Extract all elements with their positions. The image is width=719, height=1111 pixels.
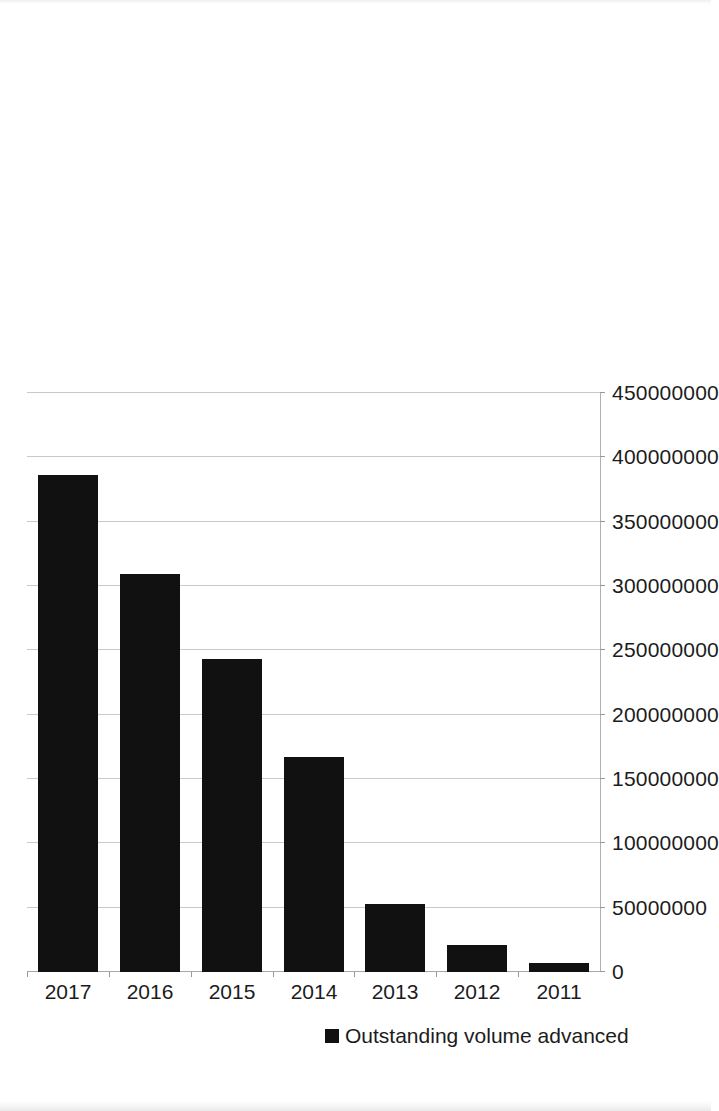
- bar-2015: [202, 659, 262, 972]
- category-tick: [354, 972, 355, 977]
- value-tick-label: 300000000: [612, 574, 719, 598]
- category-tick: [27, 972, 28, 977]
- value-tick-label: 350000000: [612, 510, 719, 534]
- bar-2013: [365, 904, 425, 972]
- scan-bottom-edge: [0, 1101, 711, 1111]
- value-tick-mark: [600, 907, 605, 908]
- bar-2011: [529, 963, 589, 972]
- value-tick-label: 150000000: [612, 767, 719, 791]
- value-tick-mark: [600, 842, 605, 843]
- gridline: [27, 585, 600, 586]
- category-label-2015: 2015: [208, 980, 255, 1004]
- value-tick-mark: [600, 521, 605, 522]
- category-axis-line: [600, 393, 601, 972]
- value-tick-label: 450000000: [612, 381, 719, 405]
- gridline: [27, 714, 600, 715]
- bar-2014: [284, 757, 344, 972]
- category-tick: [109, 972, 110, 977]
- value-tick-label: 0: [612, 960, 624, 984]
- bar-2012: [447, 945, 507, 972]
- value-tick-label: 100000000: [612, 831, 719, 855]
- gridline: [27, 649, 600, 650]
- bar-2017: [38, 475, 98, 972]
- rotated-chart-stage: 0500000001000000001500000002000000002500…: [0, 0, 690, 1060]
- value-tick-label: 400000000: [612, 445, 719, 469]
- value-tick-mark: [600, 392, 605, 393]
- category-label-2017: 2017: [45, 980, 92, 1004]
- category-tick: [436, 972, 437, 977]
- gridline: [27, 392, 600, 393]
- chart-legend: Outstanding volume advanced: [325, 1024, 629, 1048]
- category-label-2013: 2013: [372, 980, 419, 1004]
- gridline: [27, 521, 600, 522]
- value-tick-mark: [600, 714, 605, 715]
- plot-area: [27, 393, 600, 972]
- value-tick-mark: [600, 971, 605, 972]
- value-tick-label: 50000000: [612, 896, 707, 920]
- bar-2016: [120, 574, 180, 972]
- gridline: [27, 456, 600, 457]
- value-tick-label: 250000000: [612, 638, 719, 662]
- category-tick: [191, 972, 192, 977]
- filled-square-marker-icon: [325, 1029, 339, 1043]
- bar-chart: 0500000001000000001500000002000000002500…: [0, 0, 690, 1060]
- value-tick-mark: [600, 585, 605, 586]
- value-tick-label: 200000000: [612, 703, 719, 727]
- category-label-2016: 2016: [126, 980, 173, 1004]
- category-tick: [518, 972, 519, 977]
- value-tick-mark: [600, 649, 605, 650]
- category-label-2014: 2014: [290, 980, 337, 1004]
- value-tick-mark: [600, 456, 605, 457]
- legend-entry-label: Outstanding volume advanced: [345, 1024, 629, 1048]
- category-tick: [273, 972, 274, 977]
- category-label-2012: 2012: [454, 980, 501, 1004]
- value-tick-mark: [600, 778, 605, 779]
- category-label-2011: 2011: [536, 980, 581, 1004]
